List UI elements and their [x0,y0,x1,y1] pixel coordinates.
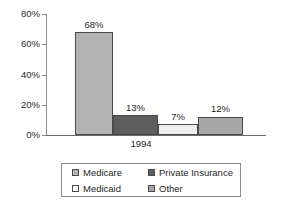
bar-value-label-medicaid: 7% [171,112,185,122]
x-axis-line [46,135,266,136]
legend-entry-medicare: Medicare [72,168,122,178]
bar-other[interactable] [198,117,243,135]
legend: Medicare Private Insurance Medicaid Othe… [61,163,241,197]
y-axis-line [46,14,47,136]
legend-label-other: Other [159,184,183,194]
bar-value-label-private-insurance: 13% [126,103,145,113]
legend-row: Medicare Private Insurance [62,165,240,180]
legend-entry-medicaid: Medicaid [72,184,121,194]
legend-swatch-medicaid [72,185,79,192]
plot-area: 0%20%40%60%80% 68%13%7%12% [46,14,266,136]
y-axis-tick-mark [42,14,46,15]
y-axis-tick-label: 60% [21,40,40,50]
bar-chart: 0%20%40%60%80% 68%13%7%12% 1994 Medicare… [0,0,283,214]
y-axis-tick-label: 40% [21,70,40,80]
bar-medicare[interactable] [75,32,113,135]
bar-private-insurance[interactable] [113,115,158,135]
legend-swatch-other [148,185,155,192]
legend-row: Medicaid Other [62,181,240,196]
y-axis-tick-mark [42,75,46,76]
bar-medicaid[interactable] [158,124,198,135]
y-axis-tick-label: 0% [26,130,40,140]
y-axis-tick-mark [42,44,46,45]
y-axis-tick-mark [42,135,46,136]
legend-swatch-private-insurance [148,169,155,176]
legend-label-medicare: Medicare [83,168,122,178]
legend-label-medicaid: Medicaid [83,184,121,194]
x-axis-category-label: 1994 [46,139,236,149]
y-axis-tick-label: 80% [21,9,40,19]
legend-swatch-medicare [72,169,79,176]
legend-label-private-insurance: Private Insurance [159,168,233,178]
y-axis-tick-mark [42,105,46,106]
legend-entry-other: Other [148,184,183,194]
legend-entry-private-insurance: Private Insurance [148,168,233,178]
bar-value-label-other: 12% [211,104,230,114]
y-axis-tick-label: 20% [21,100,40,110]
bar-value-label-medicare: 68% [84,20,103,30]
